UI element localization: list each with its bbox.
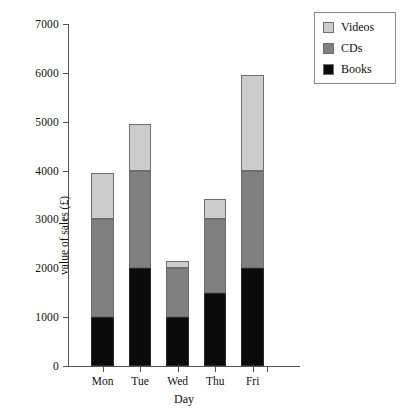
plot-area: value of sales (£) 010002000300040005000…: [68, 24, 300, 367]
y-tick-mark: [63, 122, 69, 123]
x-axis-title: Day: [174, 392, 194, 407]
bar-thu: [204, 199, 227, 366]
legend-swatch-books: [323, 64, 334, 75]
bar-segment-tue-videos: [129, 124, 152, 170]
legend-swatch-cds: [323, 43, 334, 54]
bar-wed: [166, 261, 189, 366]
y-tick-label: 5000: [35, 116, 59, 128]
bar-segment-fri-cds: [241, 171, 264, 269]
bar-segment-wed-videos: [166, 261, 189, 268]
y-tick-label: 7000: [35, 18, 59, 30]
y-tick-mark: [63, 366, 69, 367]
x-tick-mark: [267, 367, 268, 372]
bar-fri: [241, 75, 264, 366]
legend-label-books: Books: [341, 63, 372, 75]
bar-segment-thu-books: [204, 293, 227, 366]
bar-segment-tue-books: [129, 268, 152, 366]
y-tick-mark: [63, 268, 69, 269]
x-tick-label-wed: Wed: [167, 375, 188, 387]
legend-label-cds: CDs: [341, 42, 362, 54]
x-tick-mark: [103, 367, 104, 372]
bar-segment-thu-videos: [204, 199, 227, 220]
legend-label-videos: Videos: [341, 21, 374, 33]
chart-legend: VideosCDsBooks: [314, 12, 396, 84]
legend-item-videos: Videos: [323, 21, 388, 33]
x-tick-label-mon: Mon: [92, 375, 114, 387]
x-tick-mark: [178, 367, 179, 372]
y-tick-mark: [63, 219, 69, 220]
bar-segment-mon-books: [91, 317, 114, 366]
y-tick-label: 0: [53, 360, 59, 372]
stacked-bar-chart: value of sales (£) 010002000300040005000…: [0, 0, 407, 411]
x-tick-label-thu: Thu: [206, 375, 225, 387]
y-tick-label: 3000: [35, 213, 59, 225]
bar-tue: [129, 124, 152, 366]
y-tick-label: 1000: [35, 311, 59, 323]
bar-mon: [91, 173, 114, 366]
legend-item-books: Books: [323, 63, 388, 75]
bar-segment-thu-cds: [204, 219, 227, 292]
x-tick-label-tue: Tue: [131, 375, 148, 387]
bar-segment-wed-books: [166, 317, 189, 366]
x-tick-label-fri: Fri: [246, 375, 259, 387]
bar-segment-fri-books: [241, 268, 264, 366]
bar-segment-tue-cds: [129, 171, 152, 269]
y-tick-label: 2000: [35, 262, 59, 274]
x-tick-mark: [140, 367, 141, 372]
bar-segment-mon-cds: [91, 219, 114, 317]
x-tick-mark: [253, 367, 254, 372]
y-tick-label: 4000: [35, 165, 59, 177]
legend-item-cds: CDs: [323, 42, 388, 54]
y-tick-mark: [63, 73, 69, 74]
bar-segment-wed-cds: [166, 268, 189, 317]
y-axis-title: value of sales (£): [58, 196, 70, 275]
y-tick-label: 6000: [35, 67, 59, 79]
x-tick-mark: [215, 367, 216, 372]
y-tick-mark: [63, 24, 69, 25]
bar-segment-mon-videos: [91, 173, 114, 219]
y-tick-mark: [63, 171, 69, 172]
bar-segment-fri-videos: [241, 75, 264, 170]
legend-swatch-videos: [323, 22, 334, 33]
y-tick-mark: [63, 317, 69, 318]
